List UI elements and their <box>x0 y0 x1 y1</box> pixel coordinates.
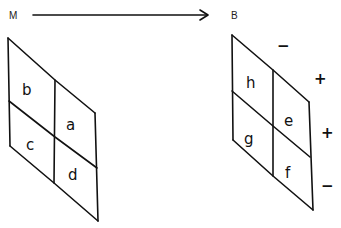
left-cell-bottom-right: d <box>68 166 78 184</box>
right-cell-bottom-left: g <box>244 130 254 148</box>
sign-right-middle: + <box>321 124 334 142</box>
right-grid <box>232 35 313 210</box>
transition-arrow <box>33 10 208 20</box>
start-label: M <box>9 10 17 21</box>
right-cell-bottom-right: f <box>285 164 291 182</box>
left-grid-middle-vertical <box>54 80 55 183</box>
left-cell-top-left: b <box>22 81 32 99</box>
sign-right-upper: + <box>314 70 327 88</box>
left-grid-top-edge <box>8 38 95 113</box>
left-cell-bottom-left: c <box>26 136 34 154</box>
right-cell-top-left: h <box>246 74 256 92</box>
end-label: B <box>231 10 238 21</box>
right-grid-left-edge <box>232 35 233 140</box>
sign-right-lower: − <box>321 177 334 195</box>
left-cell-top-right: a <box>66 116 75 134</box>
right-grid-top-edge <box>232 35 309 102</box>
sign-top-edge: − <box>277 37 290 55</box>
diagram-canvas: M B b c a d h g e f − + + − <box>0 0 341 228</box>
left-grid-middle-diagonal <box>9 101 97 168</box>
left-grid-left-edge <box>8 38 10 146</box>
left-grid <box>8 38 98 221</box>
right-cell-top-right: e <box>284 112 293 130</box>
